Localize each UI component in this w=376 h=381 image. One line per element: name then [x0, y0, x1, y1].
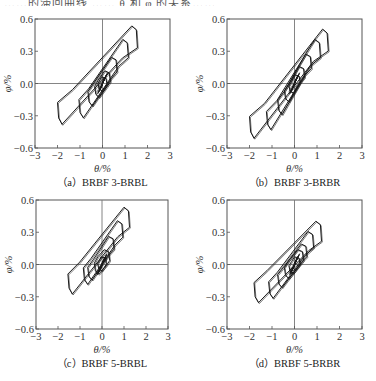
y-tick-label: −0.3: [206, 111, 225, 122]
y-tick-label: 0.0: [212, 79, 225, 90]
x-tick-label: −2: [52, 331, 63, 342]
x-tick-label: 3: [359, 150, 364, 161]
hysteresis-loop: [266, 39, 320, 129]
hysteresis-loop: [58, 26, 138, 124]
x-tick-label: 1: [121, 331, 126, 342]
y-tick-label: −0.6: [206, 324, 225, 335]
x-tick-label: 0: [99, 331, 104, 342]
y-tick-label: −0.3: [206, 292, 225, 303]
y-tick-label: 0.3: [212, 227, 225, 238]
chart-panel-a: −3−2−101230.60.30.0−0.3−0.6θ/%φ/%（a）BRBF…: [2, 14, 173, 188]
x-tick-label: 3: [167, 150, 172, 161]
x-tick-label: −1: [266, 150, 277, 161]
x-tick-label: 1: [122, 150, 127, 161]
y-tick-label: 0.6: [21, 195, 34, 206]
y-tick-label: 0.0: [20, 79, 33, 90]
x-tick-label: 0: [100, 150, 105, 161]
chart-panel-b: −3−2−101230.60.30.0−0.3−0.6θ/%φ/%（b）BRBF…: [194, 14, 365, 188]
panel-caption: （d）BRBF 5-BRBR: [249, 358, 341, 369]
panel-caption: （a）BRBF 3-BRBL: [57, 177, 147, 188]
panel-caption: （c）BRBF 5-BRBL: [57, 358, 147, 369]
y-tick-label: 0.0: [21, 260, 34, 271]
y-tick-label: −0.6: [14, 143, 33, 154]
x-axis-label: θ/%: [286, 163, 303, 174]
x-tick-label: 1: [314, 331, 319, 342]
chart-panel-d: −3−2−101230.60.30.0−0.3−0.6θ/%φ/%（d）BRBF…: [194, 195, 365, 369]
x-tick-label: −1: [74, 331, 85, 342]
x-tick-label: 0: [292, 150, 297, 161]
y-tick-label: 0.6: [20, 14, 33, 25]
x-tick-label: −2: [52, 150, 63, 161]
x-axis-label: θ/%: [94, 163, 111, 174]
x-tick-label: 2: [337, 331, 342, 342]
panel-caption: （b）BRBF 3-BRBR: [249, 177, 341, 188]
x-tick-label: 2: [145, 150, 150, 161]
x-axis-label: θ/%: [286, 344, 303, 355]
x-tick-label: 1: [314, 150, 319, 161]
hysteresis-figure: −3−2−101230.60.30.0−0.3−0.6θ/%φ/%（a）BRBF…: [0, 0, 376, 381]
x-tick-label: −1: [266, 331, 277, 342]
x-tick-label: 3: [165, 331, 170, 342]
y-tick-label: 0.3: [212, 46, 225, 57]
y-tick-label: 0.3: [20, 46, 33, 57]
y-axis-label: φ/%: [194, 256, 205, 274]
x-tick-label: 2: [337, 150, 342, 161]
y-tick-label: 0.6: [212, 195, 225, 206]
x-axis-label: θ/%: [94, 344, 111, 355]
y-axis-label: φ/%: [3, 256, 14, 274]
y-tick-label: 0.3: [21, 227, 34, 238]
x-tick-label: −2: [244, 150, 255, 161]
y-tick-label: −0.3: [14, 111, 33, 122]
x-tick-label: −1: [74, 150, 85, 161]
y-tick-label: −0.6: [15, 324, 34, 335]
y-axis-label: φ/%: [194, 75, 205, 93]
x-tick-label: 3: [359, 331, 364, 342]
hysteresis-curves: [68, 207, 130, 295]
hysteresis-curves: [58, 26, 139, 125]
y-axis-label: φ/%: [2, 75, 13, 93]
x-tick-label: 0: [292, 331, 297, 342]
hysteresis-curves: [250, 29, 330, 139]
x-tick-label: −2: [244, 331, 255, 342]
chart-panel-c: −3−2−101230.60.30.0−0.3−0.6θ/%φ/%（c）BRBF…: [3, 195, 171, 369]
y-tick-label: 0.6: [212, 14, 225, 25]
y-tick-label: 0.0: [212, 260, 225, 271]
hysteresis-curves: [254, 221, 322, 303]
y-tick-label: −0.6: [206, 143, 225, 154]
x-tick-label: 2: [143, 331, 148, 342]
y-tick-label: −0.3: [15, 292, 34, 303]
